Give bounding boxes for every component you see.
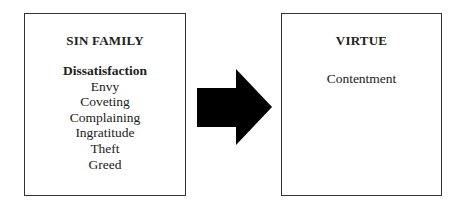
virtue-item: Contentment bbox=[282, 71, 441, 87]
sin-family-box: SIN FAMILY Dissatisfaction Envy Coveting… bbox=[24, 13, 186, 196]
virtue-box: VIRTUE Contentment bbox=[281, 13, 442, 196]
sin-list: Dissatisfaction Envy Coveting Complainin… bbox=[25, 63, 185, 172]
sin-item: Ingratitude bbox=[25, 125, 185, 141]
sin-item: Coveting bbox=[25, 94, 185, 110]
right-arrow-icon bbox=[196, 68, 274, 146]
virtue-title: VIRTUE bbox=[282, 33, 441, 49]
sin-item: Envy bbox=[25, 79, 185, 95]
sin-item: Complaining bbox=[25, 110, 185, 126]
sin-item: Theft bbox=[25, 141, 185, 157]
sin-item: Greed bbox=[25, 157, 185, 173]
sin-item: Dissatisfaction bbox=[25, 63, 185, 79]
sin-family-title: SIN FAMILY bbox=[25, 33, 185, 49]
